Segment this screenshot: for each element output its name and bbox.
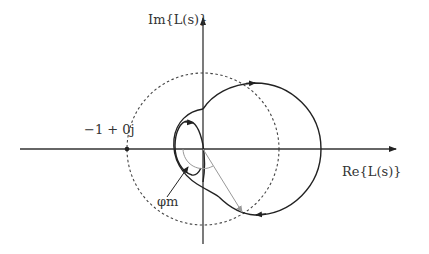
phase-margin-arc — [183, 149, 213, 169]
real-axis-label: Re{L(s)} — [342, 164, 401, 179]
nyquist-curve-inner-loop — [175, 121, 205, 182]
critical-point-marker — [125, 147, 130, 152]
phase-margin-label: φm — [157, 194, 178, 209]
phase-margin-pointer — [167, 167, 188, 197]
nyquist-curve-left-arc — [174, 109, 219, 197]
phase-margin-ray — [203, 149, 242, 212]
critical-point-label: −1 + 0j — [84, 122, 135, 137]
imag-axis-label: Im{L(s)} — [148, 12, 207, 27]
nyquist-diagram: Im{L(s)} Re{L(s)} −1 + 0j φm — [0, 0, 429, 254]
direction-arrow-bottom — [256, 214, 266, 215]
direction-arrow-top — [246, 83, 255, 84]
